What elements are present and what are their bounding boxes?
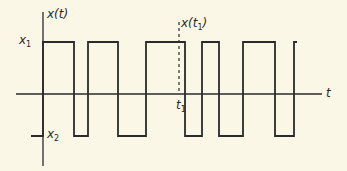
sample-time-subscript: 1	[181, 105, 186, 114]
x-axis-label-text: t	[326, 86, 331, 100]
waveform-plot	[0, 0, 347, 171]
y-axis-label-text: x(t)	[47, 7, 68, 21]
sample-value-label: x(t1)	[181, 17, 207, 32]
y-axis-label: x(t)	[47, 8, 68, 20]
sample-time-label: t1	[176, 99, 186, 114]
level-high-label: x1	[19, 34, 31, 49]
x-axis-label: t	[326, 87, 331, 99]
sample-value-text: x(t	[181, 16, 198, 30]
level-low-subscript: 2	[54, 134, 59, 143]
level-high-subscript: 1	[26, 40, 31, 49]
level-low-label: x2	[47, 128, 59, 143]
square-waveform	[31, 42, 297, 136]
telegraph-signal-diagram: x(t) t x1 x2 x(t1) t1	[0, 0, 347, 171]
sample-value-close-paren: )	[203, 16, 208, 30]
